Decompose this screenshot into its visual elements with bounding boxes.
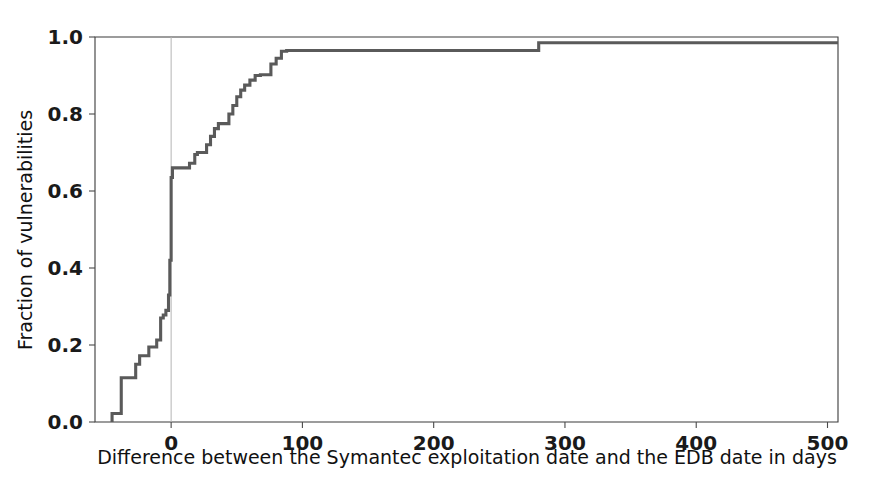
y-tick-labels: 0.00.20.40.60.81.0	[48, 25, 83, 434]
y-tick-label: 0.2	[48, 333, 83, 357]
x-tick-marks	[171, 422, 827, 428]
ecdf-figure: 0100200300400500 0.00.20.40.60.81.0 Diff…	[0, 0, 874, 483]
y-axis-label: Fraction of vulnerabilities	[14, 110, 36, 350]
y-tick-label: 0.0	[48, 410, 83, 434]
x-axis-label: Difference between the Symantec exploita…	[97, 446, 837, 468]
y-tick-marks	[89, 37, 95, 422]
y-tick-label: 0.4	[48, 256, 83, 280]
y-tick-label: 1.0	[48, 25, 83, 49]
plot-background	[95, 37, 838, 422]
y-tick-label: 0.6	[48, 179, 83, 203]
plot-canvas: 0100200300400500 0.00.20.40.60.81.0 Diff…	[0, 0, 874, 483]
y-tick-label: 0.8	[48, 102, 83, 126]
